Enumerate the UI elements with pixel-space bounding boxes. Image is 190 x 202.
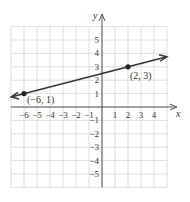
- y-tick-label: −2: [89, 129, 99, 139]
- x-tick-label: 4: [152, 110, 157, 120]
- x-tick-label: −4: [45, 110, 55, 120]
- x-axis-label: x: [175, 108, 181, 119]
- x-tick-label: −2: [71, 110, 81, 120]
- data-point: [125, 64, 130, 69]
- x-tick-label: 2: [126, 110, 131, 120]
- x-tick-label: −3: [58, 110, 68, 120]
- point-label: (2, 3): [130, 70, 152, 82]
- y-tick-label: −1: [89, 115, 99, 125]
- x-tick-label: −6: [19, 110, 29, 120]
- y-tick-label: −3: [89, 142, 99, 152]
- y-tick-label: 2: [95, 75, 100, 85]
- y-tick-label: 1: [95, 89, 100, 99]
- x-tick-label: −5: [32, 110, 42, 120]
- coordinate-plane: xy −6−5−4−3−2−1123454321−1−2−3−4−5 (−6, …: [0, 0, 190, 202]
- points: (−6, 1)(2, 3): [21, 64, 151, 105]
- x-tick-label: 3: [139, 110, 144, 120]
- y-tick-label: 3: [95, 62, 100, 72]
- y-tick-label: 4: [95, 48, 100, 58]
- y-axis-label: y: [92, 10, 98, 21]
- point-label: (−6, 1): [27, 94, 54, 106]
- data-point: [21, 91, 26, 96]
- x-tick-label: 1: [113, 110, 118, 120]
- y-tick-label: −5: [89, 169, 99, 179]
- y-tick-label: −4: [89, 156, 99, 166]
- y-tick-label: 5: [95, 35, 100, 45]
